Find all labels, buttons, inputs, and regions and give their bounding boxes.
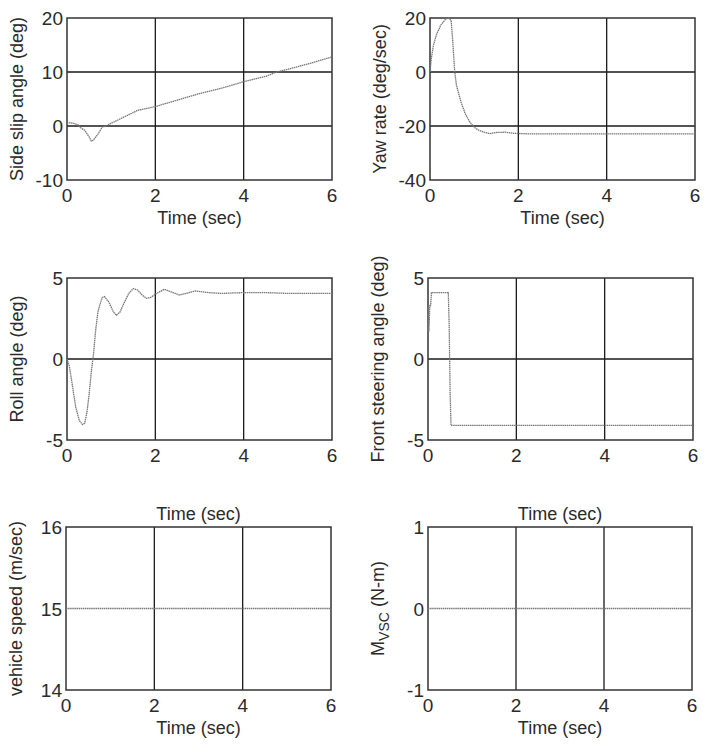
x-axis-label: Time (sec) [157, 208, 241, 228]
subplot-yaw-rate: 0246-40-20020Time (sec)Yaw rate (deg/sec… [370, 8, 700, 228]
x-tick-label: 2 [513, 185, 524, 206]
y-tick-label: 10 [42, 62, 63, 83]
y-tick-label: 5 [52, 268, 63, 289]
x-tick-label: 4 [237, 695, 248, 716]
y-tick-label: 0 [413, 599, 424, 620]
subplot-front-steering: 0246-505Front steering angle (deg) [368, 255, 698, 466]
y-axis-label: Roll angle (deg) [7, 295, 27, 422]
x-tick-label: 0 [425, 185, 436, 206]
y-tick-label: 5 [413, 268, 424, 289]
x-tick-label: 0 [62, 185, 73, 206]
y-axis-label: Yaw rate (deg/sec) [370, 24, 390, 174]
y-tick-label: 20 [42, 8, 63, 29]
series-line [430, 18, 695, 134]
x-tick-label: 0 [62, 445, 73, 466]
series-line [67, 289, 332, 425]
x-tick-label: 4 [238, 445, 249, 466]
y-tick-label: -40 [399, 170, 426, 191]
x-tick-label: 0 [423, 445, 434, 466]
y-axis-label: vehicle speed (m/sec) [6, 521, 26, 696]
y-tick-label: 0 [52, 116, 63, 137]
y-tick-label: -20 [399, 116, 426, 137]
x-tick-label: 4 [601, 185, 612, 206]
x-tick-label: 2 [149, 695, 160, 716]
x-tick-label: 4 [599, 445, 610, 466]
x-tick-label: 4 [238, 185, 249, 206]
x-tick-label: 0 [61, 695, 72, 716]
x-axis-label: Time (sec) [156, 718, 240, 738]
axes-frame [67, 18, 332, 180]
x-tick-label: 2 [511, 445, 522, 466]
x-tick-label: 6 [687, 695, 698, 716]
y-tick-label: 20 [405, 8, 426, 29]
x-tick-label: 6 [690, 185, 701, 206]
y-tick-label: 0 [52, 349, 63, 370]
subplot-m-vsc: 0246-101Time (sec)Time (sec)MVSC (N-m) [368, 504, 697, 738]
y-axis-label: MVSC (N-m) [368, 561, 392, 656]
y-tick-label: -5 [46, 430, 63, 451]
x-tick-label: 6 [688, 445, 699, 466]
y-tick-label: -5 [407, 430, 424, 451]
subplot-roll-angle: 0246-505Roll angle (deg) [7, 268, 337, 466]
x-tick-label: 0 [423, 695, 434, 716]
axes-frame [428, 527, 692, 690]
y-tick-label: -1 [407, 680, 424, 701]
x-tick-label: 4 [599, 695, 610, 716]
plot-title: Time (sec) [156, 504, 240, 524]
y-tick-label: 0 [415, 62, 426, 83]
y-axis-label: Front steering angle (deg) [368, 255, 388, 462]
y-label-subscript: VSC [376, 612, 392, 641]
y-tick-label: 16 [41, 517, 62, 538]
figure-canvas: 0246-1001020Time (sec)Side slip angle (d… [0, 0, 710, 754]
y-tick-label: 15 [41, 599, 62, 620]
x-axis-label: Time (sec) [520, 208, 604, 228]
series-line [67, 57, 332, 141]
subplot-vehicle-speed: 0246141516Time (sec)Time (sec)vehicle sp… [6, 504, 336, 738]
x-tick-label: 6 [327, 445, 338, 466]
y-label-main: M [368, 641, 388, 656]
axes-frame [430, 18, 695, 180]
y-tick-label: -10 [36, 170, 63, 191]
x-tick-label: 6 [327, 185, 338, 206]
x-tick-label: 6 [326, 695, 337, 716]
y-tick-label: 1 [413, 517, 424, 538]
x-axis-label: Time (sec) [518, 718, 602, 738]
y-label-units: (N-m) [368, 561, 388, 612]
y-axis-label: Side slip angle (deg) [7, 17, 27, 181]
x-tick-label: 2 [150, 185, 161, 206]
y-tick-label: 14 [41, 680, 63, 701]
y-tick-label: 0 [413, 349, 424, 370]
plot-title: Time (sec) [518, 504, 602, 524]
x-tick-label: 2 [511, 695, 522, 716]
x-tick-label: 2 [150, 445, 161, 466]
subplot-side-slip: 0246-1001020Time (sec)Side slip angle (d… [7, 8, 337, 228]
